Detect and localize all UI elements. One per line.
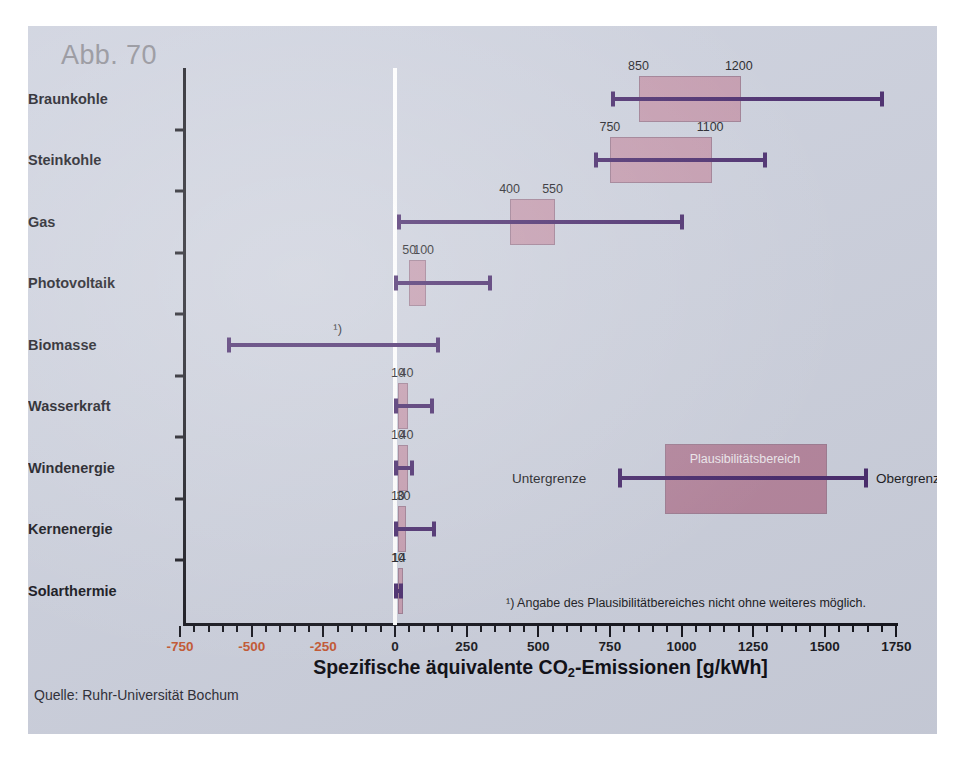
- upper-limit-cap: [430, 399, 434, 414]
- category-label: Wasserkraft: [28, 398, 180, 414]
- x-axis-minor-tick: [523, 626, 525, 632]
- x-axis-title: Spezifische äquivalente CO2-Emissionen […: [183, 656, 898, 679]
- box-upper-value-label: 100: [413, 243, 434, 257]
- box-upper-value-label: 40: [400, 366, 414, 380]
- x-axis-tick-label: 1000: [666, 639, 696, 654]
- x-axis-major-tick: [394, 626, 396, 637]
- x-axis-minor-tick: [638, 626, 640, 632]
- x-axis-tick-label: -500: [238, 639, 265, 654]
- axis-title-suffix: -Emissionen [g/kWh]: [575, 656, 768, 678]
- x-axis-minor-tick: [494, 626, 496, 632]
- box-lower-value-label: 750: [599, 120, 620, 134]
- lower-limit-cap: [394, 583, 398, 598]
- box-upper-value-label: 550: [542, 182, 563, 196]
- x-axis-minor-tick: [294, 626, 296, 632]
- figure-panel: Abb. 70 BraunkohleSteinkohleGasPhotovolt…: [28, 26, 937, 734]
- lower-limit-cap: [394, 460, 398, 475]
- y-axis-tick: [175, 313, 186, 316]
- x-axis-minor-tick: [580, 626, 582, 632]
- x-axis-minor-tick: [509, 626, 511, 632]
- y-axis-tick: [175, 128, 186, 131]
- upper-limit-cap: [432, 522, 436, 537]
- box-upper-value-label: 14: [392, 551, 406, 565]
- y-axis-line: [183, 68, 186, 625]
- x-axis-minor-tick: [222, 626, 224, 632]
- x-axis-minor-tick: [709, 626, 711, 632]
- x-axis-tick-label: 750: [599, 639, 622, 654]
- legend-upper-label: Obergrenze: [876, 471, 937, 486]
- x-axis-major-tick: [322, 626, 324, 637]
- x-axis-tick-label: 500: [527, 639, 550, 654]
- range-whisker: [396, 404, 432, 408]
- x-axis-tick-label: -750: [167, 639, 194, 654]
- x-axis-minor-tick: [265, 626, 267, 632]
- x-axis-minor-tick: [666, 626, 668, 632]
- category-label: Biomasse: [28, 337, 180, 353]
- category-label: Kernenergie: [28, 521, 180, 537]
- category-label: Photovoltaik: [28, 275, 180, 291]
- x-axis-tick-label: 1500: [810, 639, 840, 654]
- x-axis-minor-tick: [208, 626, 210, 632]
- lower-limit-cap: [394, 399, 398, 414]
- x-axis-line: [183, 623, 898, 626]
- x-axis-minor-tick: [480, 626, 482, 632]
- x-axis-tick-label: -250: [310, 639, 337, 654]
- y-axis-tick: [175, 374, 186, 377]
- upper-limit-cap: [880, 91, 884, 106]
- x-axis-minor-tick: [451, 626, 453, 632]
- upper-limit-cap: [410, 460, 414, 475]
- range-whisker: [396, 281, 489, 285]
- x-axis-minor-tick: [236, 626, 238, 632]
- x-axis-minor-tick: [423, 626, 425, 632]
- axis-title-prefix: Spezifische äquivalente CO: [313, 656, 568, 678]
- upper-limit-cap: [436, 337, 440, 352]
- lower-limit-cap: [594, 153, 598, 168]
- box-lower-value-label: 400: [499, 182, 520, 196]
- legend-lower-cap: [618, 469, 622, 488]
- x-axis-tick-label: 250: [455, 639, 478, 654]
- legend-range-line: [620, 476, 866, 480]
- y-axis-tick: [175, 190, 186, 193]
- upper-limit-cap: [399, 583, 403, 598]
- x-axis-major-tick: [251, 626, 253, 637]
- y-axis-tick: [175, 251, 186, 254]
- x-axis-minor-tick: [351, 626, 353, 632]
- x-axis-minor-tick: [766, 626, 768, 632]
- x-axis-minor-tick: [852, 626, 854, 632]
- x-axis-minor-tick: [566, 626, 568, 632]
- x-axis-major-tick: [609, 626, 611, 637]
- category-label: Steinkohle: [28, 152, 180, 168]
- upper-limit-cap: [763, 153, 767, 168]
- y-axis-tick: [175, 497, 186, 500]
- x-axis-tick-label: 0: [391, 639, 399, 654]
- x-axis-minor-tick: [838, 626, 840, 632]
- legend-lower-label: Untergrenze: [512, 471, 586, 486]
- range-whisker: [399, 220, 681, 224]
- x-axis-tick-label: 1750: [881, 639, 911, 654]
- lower-limit-cap: [611, 91, 615, 106]
- x-axis-minor-tick: [623, 626, 625, 632]
- x-axis-minor-tick: [193, 626, 195, 632]
- range-whisker: [396, 527, 433, 531]
- x-axis-minor-tick: [809, 626, 811, 632]
- lower-limit-cap: [394, 522, 398, 537]
- box-upper-value-label: 30: [397, 489, 411, 503]
- x-axis-minor-tick: [552, 626, 554, 632]
- x-axis-major-tick: [895, 626, 897, 637]
- axis-title-subscript: 2: [568, 665, 575, 680]
- range-whisker: [613, 97, 882, 101]
- y-axis-tick: [175, 436, 186, 439]
- category-label: Gas: [28, 214, 180, 230]
- legend-upper-cap: [864, 469, 868, 488]
- x-axis-minor-tick: [652, 626, 654, 632]
- x-axis-minor-tick: [795, 626, 797, 632]
- x-axis-major-tick: [681, 626, 683, 637]
- chart-plot-area: BraunkohleSteinkohleGasPhotovoltaikBioma…: [28, 26, 937, 734]
- upper-limit-cap: [488, 276, 492, 291]
- x-axis-tick-label: 1250: [738, 639, 768, 654]
- x-axis-major-tick: [752, 626, 754, 637]
- x-axis-major-tick: [537, 626, 539, 637]
- category-label: Braunkohle: [28, 91, 180, 107]
- box-lower-value-label: 850: [628, 59, 649, 73]
- x-axis-major-tick: [824, 626, 826, 637]
